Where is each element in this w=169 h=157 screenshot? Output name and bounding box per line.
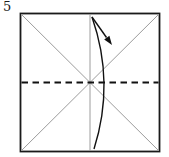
origami-diagram (0, 0, 169, 157)
origami-step-panel: 5 (0, 0, 169, 157)
